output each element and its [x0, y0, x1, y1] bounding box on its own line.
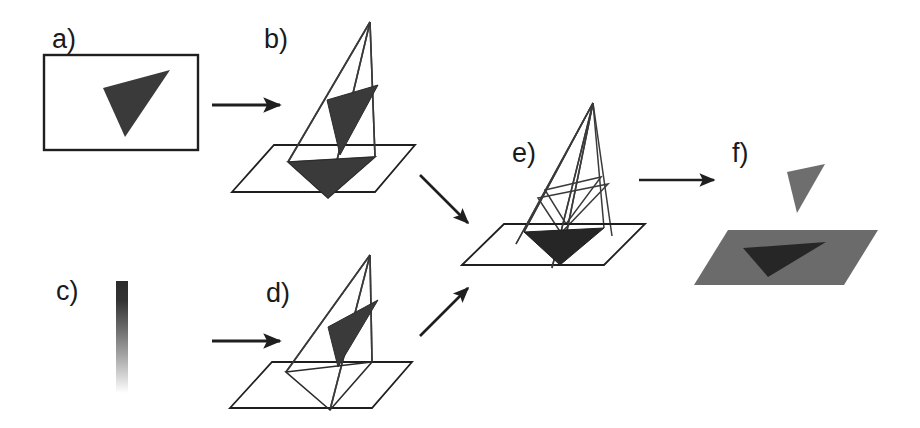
panel-d: d): [230, 255, 412, 410]
panel-e: e): [462, 103, 645, 268]
arrow-b-to-e: [420, 175, 468, 223]
panel-a-label: a): [52, 24, 76, 54]
panel-d-label: d): [266, 278, 290, 308]
panel-c: c): [56, 276, 128, 393]
panel-a: a): [44, 24, 198, 150]
panel-d-ground-triangle-outline: [286, 362, 372, 410]
panel-d-ground-plane: [230, 362, 412, 408]
panel-f-floating-triangle: [787, 164, 825, 213]
panel-c-label: c): [56, 276, 79, 306]
arrow-d-to-e: [420, 288, 468, 336]
panel-f: f): [694, 138, 878, 285]
panel-f-label: f): [732, 138, 749, 168]
panel-b: b): [232, 22, 415, 198]
panel-d-cone-triangle: [328, 300, 378, 367]
panel-e-ground-triangle: [524, 228, 604, 265]
panel-c-gradient-bar: [116, 281, 128, 393]
figure-container: a) b): [0, 0, 920, 428]
figure-canvas: a) b): [0, 0, 920, 428]
panel-b-label: b): [264, 24, 288, 54]
panel-e-label: e): [512, 138, 536, 168]
